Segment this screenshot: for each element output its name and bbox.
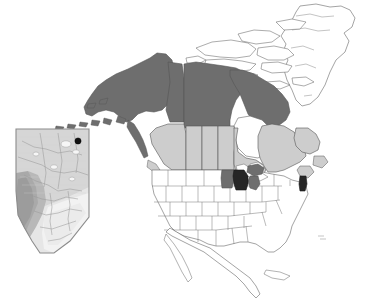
inset-site-marker-dot [75,138,81,144]
inset-terrain [14,127,91,255]
region-yukon [166,62,184,122]
region-newfoundland-island [313,156,328,168]
region-minnesota [221,170,234,188]
region-alberta [186,126,202,170]
map-landmasses [55,4,355,298]
region-alaska [84,53,174,122]
alaska-panhandle [127,120,148,158]
region-manitoba [218,126,236,170]
alberta-inset-svg [14,127,91,255]
region-new-hampshire-highlight [299,176,307,191]
bermuda-speck [318,236,326,239]
alberta-inset-map [14,127,91,255]
region-british-columbia [150,124,186,170]
region-wisconsin-highlight [233,170,248,190]
north-america-map-figure [0,0,368,305]
region-cuba [264,270,290,280]
region-saskatchewan [202,126,218,170]
